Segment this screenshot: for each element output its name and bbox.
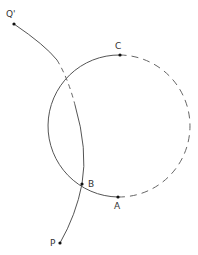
circle-solid-arc [48,55,120,197]
point-b [80,182,83,185]
label-b: B [88,179,94,189]
curve-qp-solid-top [14,24,57,60]
label-q-prime: Q' [6,9,16,19]
geometry-diagram: Q' C B A P [0,0,198,255]
circle-dashed-arc [118,55,190,197]
point-c [118,53,121,56]
label-a: A [114,201,121,211]
point-p [58,241,61,244]
label-c: C [115,41,121,51]
curve-qp-dashed [57,60,75,105]
point-q-prime [12,22,15,25]
curve-qp-solid-bottom [60,105,84,243]
point-a [116,195,119,198]
label-p: P [50,238,56,248]
